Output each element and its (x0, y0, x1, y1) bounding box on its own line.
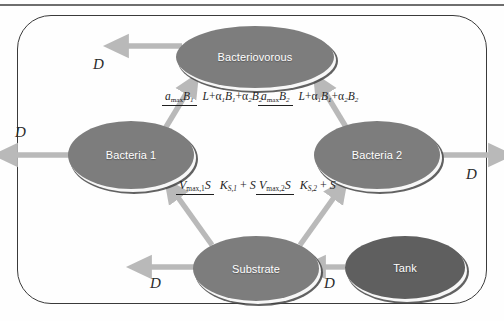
dilution-label-substrate: D (150, 275, 161, 292)
node-bacteria2-label: Bacteria 2 (352, 149, 403, 161)
symbol-two: 2 (355, 96, 359, 104)
symbol-max: max (171, 96, 183, 104)
symbol-S: S (205, 178, 211, 192)
symbol-K: K (220, 178, 228, 192)
symbol-B: B (225, 90, 232, 102)
formula-predation-b2-denominator: L+α1B1+α2B2 (296, 89, 362, 104)
dilution-label-bacteriovorous: D (93, 56, 104, 73)
node-tank[interactable]: Tank (345, 236, 465, 299)
node-tank-label: Tank (393, 262, 417, 274)
node-bacteriovorous[interactable]: Bacteriovorous (176, 26, 334, 88)
formula-predation-b1: amaxB1 L+α1B1+α2B2 (162, 89, 265, 106)
node-substrate[interactable]: Substrate (193, 236, 319, 301)
figure-canvas: Bacteriovorous Bacteria 1 Bacteria 2 Sub… (0, 0, 504, 321)
symbol-max: max (267, 96, 279, 104)
dilution-label-bacteria1: D (15, 124, 26, 141)
formula-predation-b1-denominator: L+α1B1+α2B2 (200, 89, 266, 104)
symbol-B: B (183, 90, 190, 102)
node-bacteria1-label: Bacteria 1 (106, 149, 157, 161)
symbol-plus: + (320, 178, 327, 192)
formula-uptake-2: Vmax,2S KS,2 + S (256, 178, 339, 195)
formula-predation-b2-numerator: amaxB2 (258, 90, 293, 106)
symbol-B: B (348, 90, 355, 102)
formula-uptake-2-numerator: Vmax,2S (256, 179, 294, 195)
formula-uptake-1-numerator: Vmax,1S (176, 179, 214, 195)
symbol-S: S (285, 178, 291, 192)
formula-uptake-1: Vmax,1S KS,1 + S (176, 178, 259, 195)
arrow-substrate-to-bacteria1 (172, 189, 212, 245)
symbol-S-1: S,1 (228, 184, 237, 193)
arrow-substrate-to-bacteria2 (300, 189, 340, 245)
dilution-label-tank: D (324, 275, 335, 292)
symbol-max-2: max,2 (266, 184, 284, 193)
symbol-one: 1 (190, 96, 194, 104)
node-bacteriovorous-label: Bacteriovorous (218, 51, 293, 63)
dilution-label-bacteria2: D (466, 166, 477, 183)
symbol-S: S (330, 178, 336, 192)
symbol-B: B (321, 90, 328, 102)
symbol-plus: + (240, 178, 247, 192)
symbol-S: S (250, 178, 256, 192)
symbol-S-2: S,2 (308, 184, 317, 193)
node-substrate-label: Substrate (232, 263, 280, 275)
symbol-two: 2 (286, 96, 290, 104)
formula-uptake-2-denominator: KS,2 + S (297, 178, 339, 193)
formula-predation-b2: amaxB2 L+α1B1+α2B2 (258, 89, 361, 106)
symbol-K: K (300, 178, 308, 192)
formula-predation-b1-numerator: amaxB1 (162, 90, 197, 106)
formula-uptake-1-denominator: KS,1 + S (217, 178, 259, 193)
symbol-B: B (279, 90, 286, 102)
symbol-max-1: max,1 (186, 184, 204, 193)
